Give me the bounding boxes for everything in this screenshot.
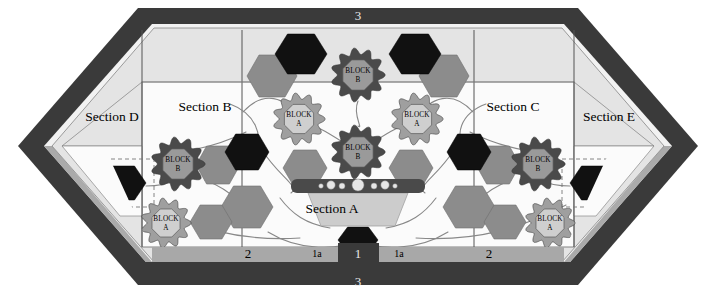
block-label-line1: BLOCK xyxy=(537,215,563,223)
center-bar-dot xyxy=(352,179,364,191)
block-label-line2: B xyxy=(176,165,181,173)
block-label-line2: A xyxy=(414,120,420,128)
block-label-line2: B xyxy=(356,153,361,161)
center-bar-dot xyxy=(371,183,377,189)
center-bar-dot xyxy=(339,183,345,189)
block-label-line1: BLOCK xyxy=(404,111,430,119)
section-label-a: Section A xyxy=(306,201,359,216)
block-label-line1: BLOCK xyxy=(286,111,312,119)
edge-label-bottom-1: 1 xyxy=(355,246,362,261)
section-label-b: Section B xyxy=(179,99,232,114)
edge-label-top: 3 xyxy=(355,8,362,23)
center-bar-dot xyxy=(381,181,389,189)
block-label-line2: A xyxy=(547,224,553,232)
block-label-line1: BLOCK xyxy=(165,156,191,164)
floorplan-svg: BLOCKBBLOCKBBLOCKABLOCKABLOCKBBLOCKABLOC… xyxy=(0,0,716,293)
center-bar-dot xyxy=(327,181,335,189)
center-bar-dot xyxy=(319,184,324,189)
section-label-c: Section C xyxy=(487,99,540,114)
center-bar-dot xyxy=(393,184,398,189)
edge-label-bottom-2: 2 xyxy=(486,246,493,261)
edge-label-bottom-dark: 3 xyxy=(355,274,362,289)
section-label-e: Section E xyxy=(583,109,635,124)
block-label-line1: BLOCK xyxy=(345,67,371,75)
diagram-canvas: BLOCKBBLOCKBBLOCKABLOCKABLOCKBBLOCKABLOC… xyxy=(0,0,716,293)
edge-label-bottom-2: 2 xyxy=(245,246,252,261)
edge-label-bottom-1a: 1a xyxy=(394,248,404,259)
block-label-line1: BLOCK xyxy=(345,144,371,152)
block-label-line2: A xyxy=(163,224,169,232)
edge-label-bottom-1a: 1a xyxy=(312,248,322,259)
block-label-line1: BLOCK xyxy=(525,156,551,164)
block-label-line1: BLOCK xyxy=(153,215,179,223)
block-label-line2: B xyxy=(356,76,361,84)
section-label-d: Section D xyxy=(85,109,139,124)
block-label-line2: B xyxy=(536,165,541,173)
block-label-line2: A xyxy=(296,120,302,128)
